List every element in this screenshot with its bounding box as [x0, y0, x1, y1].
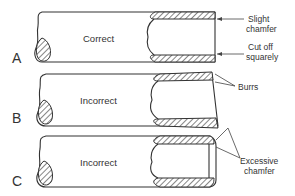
panel-letter-b: B: [12, 110, 21, 126]
panel-b: B Incorrect Burrs: [12, 72, 258, 128]
callout-burrs: Burrs: [238, 82, 258, 92]
callout-squarely: squarely: [246, 52, 279, 62]
left-end-section: [38, 100, 52, 124]
bottom-wall: [154, 178, 214, 187]
arrowhead-icon: [217, 52, 222, 56]
bottom-wall: [150, 55, 215, 62]
top-wall: [150, 12, 215, 19]
top-wall: [154, 136, 214, 144]
panel-c: C Incorrect Excessive chamfer: [12, 128, 279, 189]
inner-break-edge: [147, 19, 154, 55]
left-end-section: [36, 38, 50, 61]
inner-break-edge: [151, 81, 158, 119]
panel-label-b: Incorrect: [80, 95, 117, 106]
bottom-wall: [154, 118, 218, 128]
inner-break-edge: [151, 144, 158, 178]
tube-end-diagram: A Correct Slight chamfer Cut off squarel…: [0, 0, 295, 196]
top-wall: [154, 72, 213, 81]
callout-excessive: Excessive: [240, 156, 279, 166]
callout-chamfer: chamfer: [246, 24, 277, 34]
panel-label-a: Correct: [83, 33, 115, 44]
arrow-chamfer-top: [216, 128, 228, 140]
panel-label-c: Incorrect: [80, 157, 117, 168]
panel-letter-a: A: [12, 50, 22, 66]
callout-slight: Slight: [248, 14, 270, 24]
panel-letter-c: C: [12, 173, 22, 189]
left-end-section: [38, 161, 52, 185]
panel-a: A Correct Slight chamfer Cut off squarel…: [12, 12, 279, 66]
callout-cut-off: Cut off: [248, 42, 274, 52]
arrowhead-icon: [217, 17, 222, 21]
callout-chamfer-c: chamfer: [244, 166, 275, 176]
